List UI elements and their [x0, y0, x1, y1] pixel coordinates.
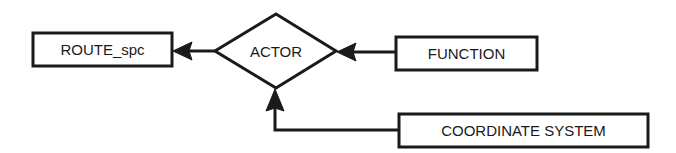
function-label: FUNCTION	[428, 45, 506, 62]
coordinate-system-label: COORDINATE SYSTEM	[441, 122, 606, 139]
node-function[interactable]: FUNCTION	[396, 37, 537, 70]
node-actor[interactable]: ACTOR	[215, 14, 336, 88]
arrowhead-up-icon	[266, 89, 284, 111]
arrowhead-left-icon	[173, 42, 192, 60]
actor-label: ACTOR	[250, 43, 302, 60]
edge-actor-to-route-spc	[173, 42, 215, 60]
edge-coordinate-system-to-actor	[266, 89, 399, 130]
edge-function-to-actor	[337, 43, 396, 61]
route-spc-label: ROUTE_spc	[60, 41, 145, 58]
diagram-canvas: ROUTE_spc ACTOR FUNCTION COORDINATE SYST…	[0, 0, 676, 153]
node-route-spc[interactable]: ROUTE_spc	[33, 33, 172, 66]
arrowhead-left-icon	[337, 43, 356, 61]
node-coordinate-system[interactable]: COORDINATE SYSTEM	[399, 114, 648, 147]
